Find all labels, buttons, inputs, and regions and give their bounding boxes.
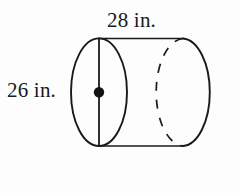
center-dot [94, 87, 104, 97]
diameter-dimension-label: 26 in. [7, 80, 56, 101]
cylinder-right-end-arc [183, 39, 210, 147]
cylinder-figure: 28 in. 26 in. [0, 0, 240, 193]
length-dimension-label: 28 in. [107, 10, 156, 31]
cylinder-hidden-back-arc [156, 39, 183, 147]
